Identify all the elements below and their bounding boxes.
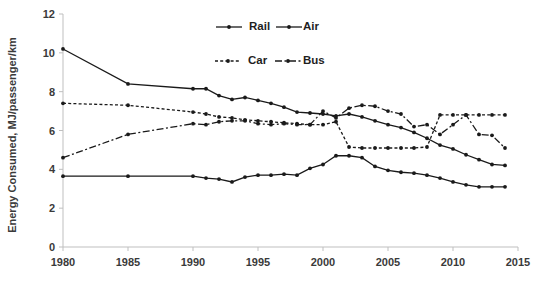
data-point bbox=[321, 163, 325, 167]
data-point bbox=[373, 165, 377, 169]
data-point bbox=[373, 104, 377, 108]
x-tick-label: 1980 bbox=[51, 256, 75, 268]
data-point bbox=[399, 146, 403, 150]
data-point bbox=[399, 126, 403, 130]
legend-item-rail[interactable]: Rail bbox=[216, 20, 270, 32]
y-tick-label: 2 bbox=[49, 202, 55, 214]
data-point bbox=[243, 175, 247, 179]
data-point bbox=[386, 109, 390, 113]
data-point bbox=[412, 146, 416, 150]
data-point bbox=[191, 110, 195, 114]
data-point bbox=[191, 174, 195, 178]
data-point bbox=[503, 113, 507, 117]
data-point bbox=[425, 123, 429, 127]
x-tick-label: 2010 bbox=[441, 256, 465, 268]
y-tick-label: 4 bbox=[49, 163, 56, 175]
data-point bbox=[451, 180, 455, 184]
data-point bbox=[490, 185, 494, 189]
data-point bbox=[256, 99, 260, 103]
legend-label-air: Air bbox=[303, 20, 320, 32]
data-point bbox=[334, 120, 338, 124]
legend-item-bus[interactable]: Bus bbox=[275, 54, 325, 66]
chart-legend: RailAirCarBus bbox=[215, 20, 325, 66]
x-tick-label: 1985 bbox=[116, 256, 140, 268]
data-point bbox=[256, 173, 260, 177]
legend-label-car: Car bbox=[248, 54, 268, 66]
y-axis-title: Energy Consumed, MJ/passenger/km bbox=[6, 37, 18, 233]
data-point bbox=[256, 122, 260, 126]
data-point bbox=[204, 176, 208, 180]
x-axis: 19801985199019952000200520102015 bbox=[51, 247, 530, 268]
data-point bbox=[399, 170, 403, 174]
y-tick-label: 0 bbox=[49, 241, 55, 253]
data-point bbox=[295, 123, 299, 127]
series-line-rail bbox=[63, 156, 505, 187]
data-point bbox=[464, 113, 468, 117]
data-point bbox=[282, 105, 286, 109]
data-point bbox=[386, 123, 390, 127]
series-bus bbox=[61, 103, 507, 159]
legend-marker-rail bbox=[227, 25, 231, 29]
data-point bbox=[217, 115, 221, 119]
data-point bbox=[282, 172, 286, 176]
data-point bbox=[230, 119, 234, 123]
data-point bbox=[295, 110, 299, 114]
data-point bbox=[282, 122, 286, 126]
series-air bbox=[61, 47, 507, 167]
data-point bbox=[412, 171, 416, 175]
legend-marker-bus bbox=[286, 59, 290, 63]
data-point bbox=[360, 115, 364, 119]
data-point bbox=[399, 112, 403, 116]
data-point bbox=[204, 112, 208, 116]
data-point bbox=[243, 96, 247, 100]
data-point bbox=[373, 119, 377, 123]
data-point bbox=[412, 125, 416, 129]
data-point bbox=[425, 173, 429, 177]
x-tick-label: 2000 bbox=[311, 256, 335, 268]
data-point bbox=[61, 101, 65, 105]
data-point bbox=[347, 112, 351, 116]
legend-marker-car bbox=[226, 59, 230, 63]
data-point bbox=[334, 154, 338, 158]
data-point bbox=[360, 103, 364, 107]
data-point bbox=[503, 185, 507, 189]
legend-item-air[interactable]: Air bbox=[276, 20, 320, 32]
data-point bbox=[308, 111, 312, 115]
x-tick-label: 2005 bbox=[376, 256, 400, 268]
data-point bbox=[321, 109, 325, 113]
x-tick-label: 1990 bbox=[181, 256, 205, 268]
legend-marker-air bbox=[287, 25, 291, 29]
line-chart: 024681012 198019851990199520002005201020… bbox=[0, 0, 548, 285]
data-point bbox=[438, 176, 442, 180]
data-point bbox=[230, 98, 234, 102]
data-point bbox=[490, 163, 494, 167]
data-point bbox=[308, 123, 312, 127]
data-point bbox=[386, 168, 390, 172]
data-point bbox=[230, 180, 234, 184]
data-point bbox=[360, 156, 364, 160]
data-point bbox=[269, 101, 273, 105]
data-point bbox=[61, 47, 65, 51]
data-point bbox=[477, 113, 481, 117]
y-tick-label: 8 bbox=[49, 86, 55, 98]
legend-label-rail: Rail bbox=[249, 20, 270, 32]
data-point bbox=[347, 145, 351, 149]
data-point bbox=[191, 122, 195, 126]
data-point bbox=[204, 123, 208, 127]
data-point bbox=[295, 173, 299, 177]
legend-label-bus: Bus bbox=[303, 54, 325, 66]
data-point bbox=[321, 123, 325, 127]
legend-item-car[interactable]: Car bbox=[215, 54, 268, 66]
data-point bbox=[347, 106, 351, 110]
data-point bbox=[308, 166, 312, 170]
data-point bbox=[243, 119, 247, 123]
data-point bbox=[269, 173, 273, 177]
data-point bbox=[386, 146, 390, 150]
series-layer bbox=[61, 47, 507, 189]
data-point bbox=[438, 143, 442, 147]
data-point bbox=[425, 136, 429, 140]
data-point bbox=[217, 177, 221, 181]
data-point bbox=[126, 174, 130, 178]
data-point bbox=[61, 174, 65, 178]
data-point bbox=[217, 120, 221, 124]
